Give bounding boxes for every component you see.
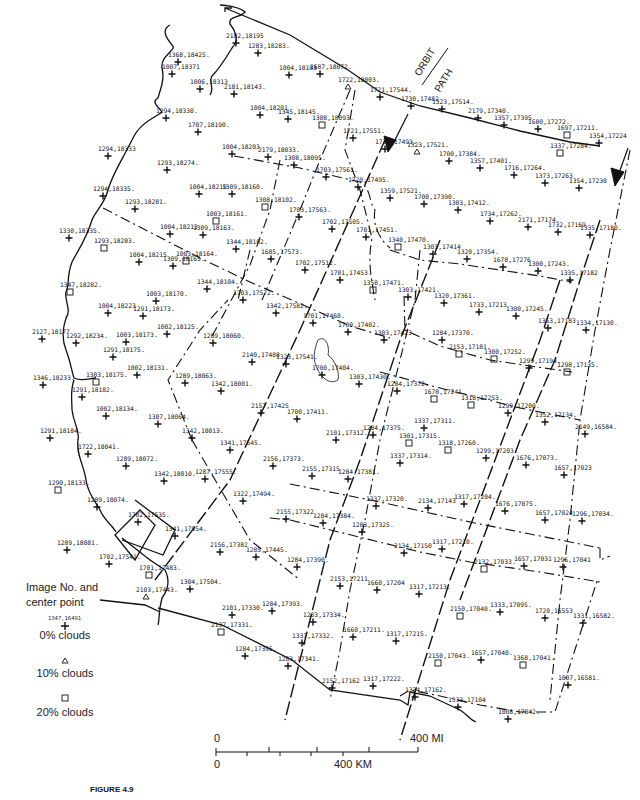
image-point: 2152,17162 [322, 677, 360, 692]
legend-0-clouds: 0% clouds [10, 629, 120, 641]
cross-icon [249, 359, 256, 366]
point-label: 2132,17033. [474, 558, 516, 565]
cross-icon [397, 460, 404, 467]
point-label: 1304,17504. [180, 578, 222, 585]
cross-icon [535, 126, 542, 133]
cross-icon [265, 154, 272, 161]
point-label: 1289,18060. [203, 332, 245, 339]
point-label: 1368,18425. [168, 51, 210, 58]
cross-icon [476, 309, 483, 316]
point-label: 1676,17073. [516, 454, 558, 461]
cross-icon [356, 381, 363, 388]
cross-icon [169, 71, 176, 78]
point-label: 2149,16584. [575, 423, 617, 430]
point-label: 1733,17213 [469, 301, 507, 308]
point-label: 1342,18010. [154, 470, 196, 477]
cross-icon [502, 508, 509, 515]
point-label: 1004,18203 [222, 143, 260, 150]
image-point: 1007,16581. [558, 674, 600, 689]
cross-icon [161, 478, 168, 485]
cross-icon [253, 554, 260, 561]
cross-icon [105, 153, 112, 160]
image-point: 1003,18173. [116, 331, 158, 346]
point-label: 1320,17361. [434, 292, 476, 299]
image-point: 2101,17312. [326, 429, 368, 444]
cross-icon [163, 115, 170, 122]
cross-icon [393, 638, 400, 645]
point-label: 1308,18093. [312, 114, 354, 121]
point-label: 1289,18072. [116, 455, 158, 462]
image-point: 2150,17043. [428, 652, 470, 666]
cross-icon [103, 413, 110, 420]
image-point: 2157,17425 [251, 402, 289, 417]
cross-icon [441, 300, 448, 307]
point-label: 1289,18074. [87, 496, 129, 503]
image-point: 1341,17545. [220, 439, 262, 454]
point-label: 1291,18182. [72, 386, 114, 393]
image-point: 1337,17320. [366, 495, 408, 510]
point-label: 1685,17573. [261, 248, 303, 255]
point-label: 1342,18013. [182, 427, 224, 434]
image-point: 1337,17332. [292, 632, 334, 647]
cross-icon [542, 180, 549, 187]
point-label: 1337,17284. [550, 142, 592, 149]
image-point: 1354,17224 [589, 132, 627, 147]
point-label: 1700,17411. [287, 408, 329, 415]
cross-icon [576, 185, 583, 192]
point-label: 1354,17230 [569, 177, 607, 184]
point-label: 1283,17325. [352, 521, 394, 528]
point-label: 1342,17582. [266, 302, 308, 309]
cross-icon [164, 331, 171, 338]
cross-icon [320, 520, 327, 527]
cross-icon [217, 549, 224, 556]
point-label: 1004,18215 [129, 251, 167, 258]
legend-10-clouds: 10% clouds [10, 667, 120, 679]
image-point: 1284,17395. [235, 645, 277, 660]
point-label: 1703,17563. [289, 206, 331, 213]
cross-icon [521, 563, 528, 570]
square-icon [431, 396, 437, 402]
cross-icon [187, 586, 194, 593]
point-label: 1701,17483. [139, 564, 181, 571]
point-label: 1293,18274. [157, 159, 199, 166]
cross-icon [242, 653, 249, 660]
cross-icon [359, 529, 366, 536]
point-label: 2156,17382 [210, 541, 248, 548]
point-label: 1357,17395 [494, 114, 532, 121]
point-label: 1700,17402. [338, 321, 380, 328]
cross-icon [439, 337, 446, 344]
image-point: 2150,17040. [450, 605, 492, 619]
image-point: 1342,18010. [154, 470, 196, 485]
image-point: 1660,17211. [343, 626, 385, 641]
point-label: 1657,17023 [554, 464, 592, 471]
image-point: 2127,18177 [32, 328, 70, 343]
cross-icon [258, 410, 265, 417]
square-icon [101, 245, 107, 251]
point-label: 2179,18033. [258, 146, 300, 153]
point-label: 1298,17135. [557, 361, 599, 368]
image-point: 1354,17230 [569, 177, 607, 192]
image-point: 1294,18333 [98, 145, 136, 160]
cross-icon [567, 277, 574, 284]
point-label: 1292,18234. [66, 332, 108, 339]
cross-icon [455, 704, 462, 711]
point-label: 1307,18064. [148, 413, 190, 420]
point-label: 1284,17384. [313, 512, 355, 519]
cross-icon [461, 501, 468, 508]
legend-title-line2: center point [26, 595, 98, 610]
point-label: 1291,18175. [103, 346, 145, 353]
point-label: 1303,17412. [448, 199, 490, 206]
image-point: 1002,18131. [127, 364, 169, 379]
image-point: 1285,17445. [246, 546, 288, 561]
point-label: 1006,18313 [190, 78, 228, 85]
point-label: 1303,17430. [349, 373, 391, 380]
point-label: 2152,17162 [322, 677, 360, 684]
cross-icon [231, 91, 238, 98]
cross-icon [542, 517, 549, 524]
image-point: 1291,18182. [72, 386, 114, 401]
image-point: 1678,17276 [493, 256, 531, 271]
image-point: 1317,17204. [454, 493, 496, 508]
legend-triangle-icon [61, 657, 69, 664]
cross-icon [350, 634, 357, 641]
cross-icon [172, 533, 179, 540]
